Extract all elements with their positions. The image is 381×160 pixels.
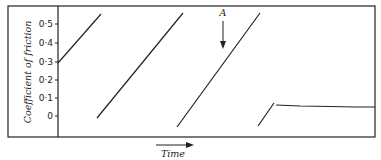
steady-sliding bbox=[276, 105, 375, 107]
tick-0: 0 bbox=[47, 111, 53, 121]
data-series bbox=[58, 13, 375, 127]
plot-frame bbox=[8, 6, 375, 137]
friction-chart: 0·5 0·4 0·3 0·2 0·1 0 Coefficient of fri… bbox=[0, 0, 381, 160]
tick-0-3: 0·3 bbox=[39, 57, 53, 67]
segment-2 bbox=[97, 13, 183, 118]
segment-1 bbox=[58, 14, 101, 63]
annotation-a: A bbox=[219, 7, 227, 18]
x-axis-label: Time bbox=[161, 148, 185, 159]
annotation-arrow-icon bbox=[220, 21, 226, 49]
tick-0-4: 0·4 bbox=[39, 38, 54, 48]
y-tick-labels: 0·5 0·4 0·3 0·2 0·1 0 bbox=[39, 19, 54, 121]
y-axis-label: Coefficient of friction bbox=[22, 21, 33, 124]
tick-0-1: 0·1 bbox=[39, 93, 53, 103]
segment-3 bbox=[177, 13, 260, 127]
tick-0-5: 0·5 bbox=[39, 19, 53, 29]
segment-4 bbox=[258, 103, 274, 126]
tick-0-2: 0·2 bbox=[39, 75, 53, 85]
